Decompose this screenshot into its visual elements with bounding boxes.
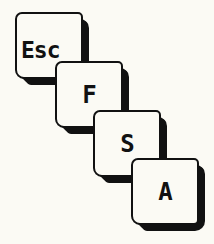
key-label: S <box>120 130 133 158</box>
key-label: A <box>158 178 171 206</box>
key-face: A <box>131 158 199 225</box>
key-label: F <box>82 81 95 109</box>
key-label: Esc <box>17 37 60 77</box>
a-key: A <box>131 158 199 225</box>
